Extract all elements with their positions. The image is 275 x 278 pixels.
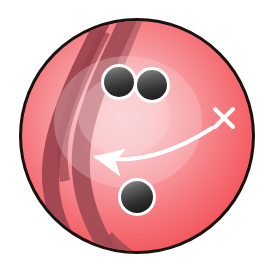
finger-hole-left bbox=[104, 67, 134, 97]
thumb-hole-bottom bbox=[121, 181, 153, 213]
image-canvas: Bowling ball with hook-direction arrow ×… bbox=[0, 0, 275, 278]
finger-hole-right bbox=[137, 70, 167, 100]
bowling-ball-illustration bbox=[0, 0, 275, 278]
